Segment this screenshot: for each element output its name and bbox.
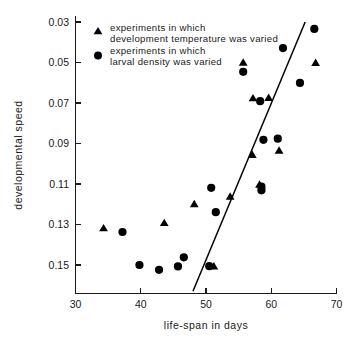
data-point-circle [259,136,267,144]
data-point-circle [174,262,182,270]
data-point-circle [256,97,264,105]
data-point-circle [207,184,215,192]
data-point-circle [155,266,163,274]
data-point-circle [135,261,143,269]
y-tick-label: 0.07 [49,97,70,109]
data-point-circle [279,44,287,52]
data-point-circle [205,262,213,270]
data-point-circle [118,228,126,236]
data-point-circle [212,208,220,216]
legend-entry-1-line-1: experiments in which [110,22,206,33]
x-tick-label: 60 [265,298,277,310]
y-tick-label: 0.05 [49,56,70,68]
data-point-circle [180,253,188,261]
data-point-circle [257,186,265,194]
y-axis-title: developmental speed [12,100,24,209]
data-point-circle [296,79,304,87]
data-point-circle [310,25,318,33]
data-point-circle [239,68,247,76]
y-tick-label: 0.09 [49,137,70,149]
y-tick-label: 0.03 [49,16,70,28]
y-tick-label: 0.15 [49,259,70,271]
y-tick-label: 0.13 [49,218,70,230]
y-tick-label: 0.11 [49,178,69,190]
legend-entry-1-line-2: development temperature was varied [110,33,278,44]
x-tick-label: 50 [200,298,212,310]
x-tick-label: 70 [331,298,343,310]
x-tick-label: 40 [135,298,147,310]
legend-entry-2-line-2: larval density was varied [110,56,222,67]
x-tick-label: 30 [70,298,82,310]
legend-entry-2-line-1: experiments in which [110,45,206,56]
x-axis-title: life-span in days [164,319,248,331]
data-point-circle [274,135,282,143]
plot-canvas: 0.030.050.070.090.110.130.15 3040506070 … [0,0,360,344]
legend-circle-icon [94,52,102,60]
scatter-plot-figure: 0.030.050.070.090.110.130.15 3040506070 … [0,0,360,344]
